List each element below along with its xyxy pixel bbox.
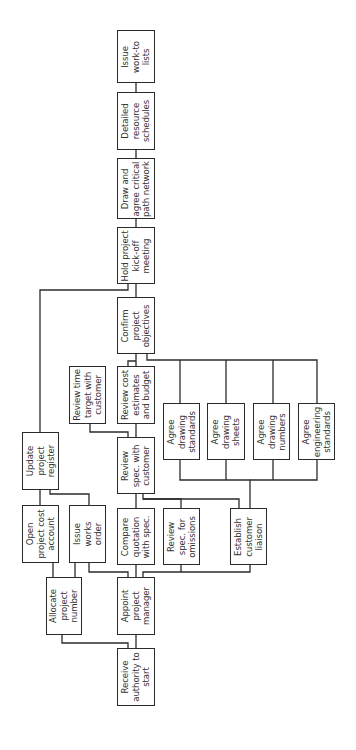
node-resource: Detailed resource schedules bbox=[117, 92, 155, 150]
node-label: Compare quotation with spec. bbox=[120, 515, 152, 558]
connector-line bbox=[143, 565, 250, 577]
node-label: Update project register bbox=[25, 445, 57, 477]
node-label: Appoint project manager bbox=[120, 587, 152, 625]
node-label: Draw and agree critical path network bbox=[120, 161, 152, 217]
node-receive: Receive authority to start bbox=[117, 648, 155, 706]
node-label: Allocate project number bbox=[48, 589, 80, 623]
node-timetarget: Review time target with customer bbox=[69, 366, 106, 424]
connector-line bbox=[147, 354, 317, 403]
node-engstd: Agree engineering standards bbox=[298, 403, 335, 460]
node-kickoff: Hold project kick-off meeting bbox=[117, 227, 155, 284]
node-register: Update project register bbox=[22, 432, 59, 490]
node-label: Agree engineering standards bbox=[301, 406, 333, 456]
node-appoint: Appoint project manager bbox=[117, 577, 155, 635]
node-label: Establish customer liaison bbox=[233, 517, 265, 557]
connector-line bbox=[143, 499, 239, 508]
connector-lines bbox=[0, 0, 356, 750]
node-label: Agree drawing sheets bbox=[210, 415, 242, 449]
node-cpn: Draw and agree critical path network bbox=[117, 158, 155, 219]
node-label: Agree drawing numbers bbox=[256, 413, 288, 450]
connector-line bbox=[62, 635, 128, 648]
connector-line bbox=[89, 563, 128, 577]
node-label: Review spec. with customer bbox=[120, 444, 152, 487]
node-cost: Review cost estimates and budget bbox=[117, 366, 155, 424]
node-omissions: Review spec. for omissions bbox=[163, 508, 200, 565]
node-worksorder: Issue works order bbox=[69, 505, 106, 563]
node-label: Issue works order bbox=[72, 522, 104, 547]
node-worklists: Issue work-to lists bbox=[117, 30, 155, 83]
node-label: Detailed resource schedules bbox=[120, 100, 152, 142]
node-label: Open project cost account bbox=[25, 509, 57, 558]
node-label: Hold project kick-off meeting bbox=[120, 230, 152, 281]
node-drawsheets: Agree drawing sheets bbox=[207, 403, 245, 460]
node-label: Receive authority to start bbox=[120, 652, 152, 701]
node-drawnum: Agree drawing numbers bbox=[253, 403, 290, 460]
node-specwith: Review spec. with customer bbox=[117, 437, 155, 494]
node-drawstd: Agree drawing standards bbox=[163, 403, 200, 460]
node-label: Confirm project objectives bbox=[120, 304, 152, 347]
node-objectives: Confirm project objectives bbox=[117, 297, 155, 354]
node-opencost: Open project cost account bbox=[22, 505, 59, 563]
node-label: Review spec. for omissions bbox=[166, 516, 198, 558]
connector-line bbox=[250, 460, 317, 480]
node-label: Review cost estimates and budget bbox=[120, 370, 152, 420]
connector-line bbox=[50, 490, 89, 505]
connector-line bbox=[143, 494, 181, 508]
node-label: Issue work-to lists bbox=[120, 41, 152, 73]
project-startup-flowchart: Receive authority to startAllocate proje… bbox=[0, 0, 356, 750]
node-allocate: Allocate project number bbox=[46, 577, 82, 635]
node-label: Review time target with customer bbox=[72, 369, 104, 421]
node-liaison: Establish customer liaison bbox=[230, 508, 267, 565]
node-compare: Compare quotation with spec. bbox=[117, 508, 155, 565]
node-label: Agree drawing standards bbox=[166, 411, 198, 453]
connector-line bbox=[90, 424, 128, 437]
